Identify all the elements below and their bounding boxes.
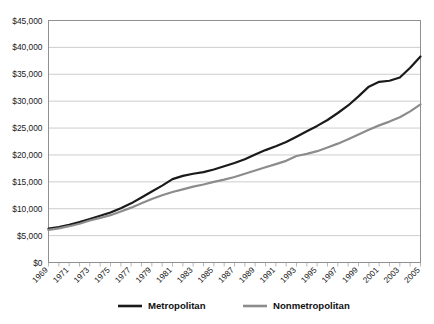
data-series-group <box>49 57 421 230</box>
line-chart: $0$5,000$10,000$15,000$20,000$25,000$30,… <box>0 0 434 324</box>
y-axis-tick-label: $10,000 <box>12 204 43 214</box>
legend-label-metropolitan: Metropolitan <box>148 300 206 311</box>
plot-border <box>49 21 421 263</box>
y-axis-tick-label: $40,000 <box>12 42 43 52</box>
y-axis-tick-label: $0 <box>33 258 43 268</box>
x-axis-tick-label: 1989 <box>237 265 257 285</box>
y-axis-tick-label: $5,000 <box>17 231 43 241</box>
x-axis-tick-label: 1995 <box>299 265 319 285</box>
x-axis-tick-label: 1987 <box>217 265 237 285</box>
x-axis-tick-label: 1969 <box>31 265 51 285</box>
x-axis-tick-label: 1981 <box>155 265 175 285</box>
x-axis-tick-label: 1983 <box>175 265 195 285</box>
y-axis-tick-label: $30,000 <box>12 96 43 106</box>
series-line-metropolitan <box>49 57 421 229</box>
x-axis-tick-label: 2001 <box>361 265 381 285</box>
x-axis-tick-label: 2005 <box>403 265 423 285</box>
x-axis-tick-label: 1999 <box>341 265 361 285</box>
legend-label-nonmetropolitan: Nonmetropolitan <box>273 300 350 311</box>
x-axis-tick-label: 1991 <box>258 265 278 285</box>
chart-legend: MetropolitanNonmetropolitan <box>118 300 350 311</box>
plot-frame <box>49 21 421 263</box>
y-axis-tick-label: $45,000 <box>12 16 43 26</box>
x-axis-tick-label: 2003 <box>382 265 402 285</box>
x-axis-tick-labels: 1969197119731975197719791981198319851987… <box>31 265 423 285</box>
x-axis-tick-label: 1973 <box>72 265 92 285</box>
x-axis-tick-label: 1979 <box>134 265 154 285</box>
y-axis-tick-label: $25,000 <box>12 123 43 133</box>
y-axis-tick-label: $20,000 <box>12 150 43 160</box>
x-axis-tick-label: 1971 <box>51 265 71 285</box>
chart-canvas: $0$5,000$10,000$15,000$20,000$25,000$30,… <box>0 0 434 324</box>
x-axis-tick-label: 1993 <box>279 265 299 285</box>
y-axis-tick-label: $35,000 <box>12 69 43 79</box>
x-axis-tick-label: 1977 <box>113 265 133 285</box>
y-axis-tick-label: $15,000 <box>12 177 43 187</box>
series-line-nonmetropolitan <box>49 104 421 230</box>
x-axis-tick-label: 1997 <box>320 265 340 285</box>
x-axis-tick-label: 1985 <box>196 265 216 285</box>
gridlines <box>49 21 421 236</box>
y-axis-tick-labels: $0$5,000$10,000$15,000$20,000$25,000$30,… <box>12 16 43 268</box>
x-axis-tick-label: 1975 <box>93 265 113 285</box>
